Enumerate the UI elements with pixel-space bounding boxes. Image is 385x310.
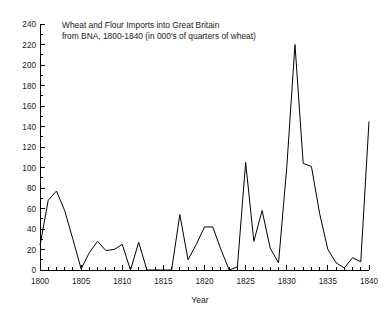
x-axis: 180018051810181518201825183018351840 [31, 265, 379, 286]
y-tick-label: 240 [22, 20, 36, 29]
y-tick-label: 160 [22, 102, 36, 111]
x-tick-label: 1805 [72, 277, 91, 286]
x-tick-label: 1840 [360, 277, 379, 286]
y-tick-label: 60 [27, 205, 37, 214]
y-tick-label: 140 [22, 123, 36, 132]
x-axis-title: Year [191, 295, 209, 305]
line-chart: Wheat and Flour Imports into Great Brita… [0, 0, 385, 310]
y-tick-label: 180 [22, 82, 36, 91]
y-tick-label: 200 [22, 61, 36, 70]
y-tick-label: 220 [22, 41, 36, 50]
chart-container: Wheat and Flour Imports into Great Brita… [0, 0, 385, 310]
x-tick-label: 1820 [195, 277, 214, 286]
y-tick-label: 0 [31, 266, 36, 275]
x-tick-label: 1800 [31, 277, 50, 286]
x-tick-label: 1825 [237, 277, 256, 286]
chart-title: Wheat and Flour Imports into Great Brita… [62, 20, 256, 41]
x-tick-label: 1810 [113, 277, 132, 286]
chart-title-line-1: Wheat and Flour Imports into Great Brita… [62, 20, 220, 30]
y-tick-label: 100 [22, 164, 36, 173]
y-tick-label: 20 [27, 246, 37, 255]
chart-title-line-2: from BNA, 1800-1840 (in 000's of quarter… [62, 31, 256, 41]
data-series [40, 45, 369, 271]
y-tick-label: 120 [22, 143, 36, 152]
x-tick-label: 1830 [278, 277, 297, 286]
y-tick-label: 40 [27, 225, 37, 234]
y-tick-label: 80 [27, 184, 37, 193]
x-tick-label: 1815 [154, 277, 173, 286]
x-tick-label: 1835 [319, 277, 338, 286]
series-line-wheat-flour-imports [40, 45, 369, 271]
